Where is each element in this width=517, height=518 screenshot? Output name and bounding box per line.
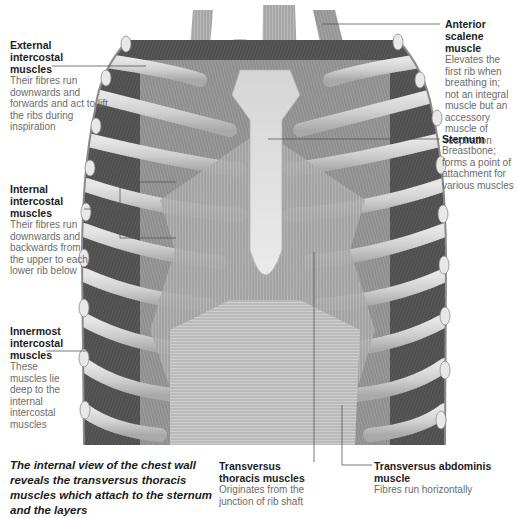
label-title: intercostal (10, 195, 90, 207)
label-innermost-intercostal: Innermost intercostal muscles These musc… (10, 325, 75, 430)
label-desc: Fibres run horizontally (374, 484, 504, 496)
label-external-intercostal: External intercostal muscles Their fibre… (10, 39, 110, 133)
label-transversus-thoracis: Transversus thoracis muscles Originates … (219, 460, 319, 507)
label-title: muscles (10, 63, 110, 75)
label-desc: Their fibres run downwards and forwards … (10, 75, 110, 133)
label-desc: Their fibres run downwards and backwards… (10, 219, 90, 277)
label-desc: Breastbone; forms a point of attachment … (442, 145, 514, 191)
label-title: Innermost (10, 325, 75, 337)
label-title: External (10, 39, 110, 51)
label-desc: Originates from the junction of rib shaf… (219, 484, 319, 507)
figure-caption: The internal view of the chest wall reve… (10, 458, 220, 518)
label-desc: These muscles lie deep to the internal i… (10, 361, 75, 430)
rib-cage (80, 30, 450, 450)
label-title: Transversus abdominis muscle (374, 460, 504, 484)
label-title: intercostal (10, 51, 110, 63)
label-sternum: Sternum Breastbone; forms a point of att… (442, 133, 514, 191)
label-title: Internal (10, 183, 90, 195)
label-title: muscles (10, 349, 75, 361)
label-title: Anterior scalene muscle (445, 18, 515, 54)
label-title: muscles (10, 207, 90, 219)
label-title: Sternum (442, 133, 514, 145)
label-transversus-abdominis: Transversus abdominis muscle Fibres run … (374, 460, 504, 496)
label-anterior-scalene: Anterior scalene muscle Elevates the fir… (445, 18, 515, 146)
label-internal-intercostal: Internal intercostal muscles Their fibre… (10, 183, 90, 277)
label-title: Transversus thoracis muscles (219, 460, 319, 484)
label-title: intercostal (10, 337, 75, 349)
